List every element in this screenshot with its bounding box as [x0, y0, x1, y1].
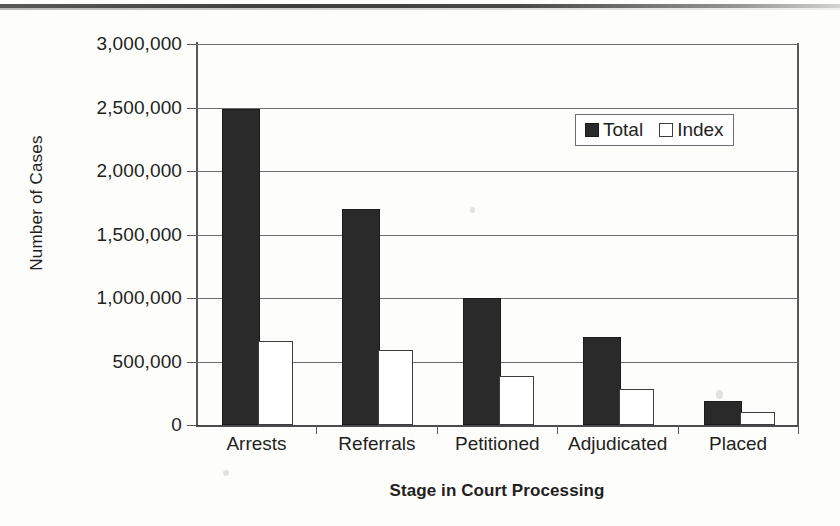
y-axis-title: Number of Cases	[27, 103, 47, 303]
gridline	[196, 171, 798, 172]
y-axis-tick-label: 1,500,000	[97, 224, 182, 246]
y-axis-tick	[187, 298, 196, 299]
y-axis-tick-label: 500,000	[113, 351, 182, 373]
chart-page: Number of Cases Stage in Court Processin…	[0, 0, 840, 526]
bar-total-adjudicated[interactable]	[583, 337, 621, 425]
x-axis-label-referrals: Referrals	[338, 433, 415, 455]
bar-index-placed[interactable]	[740, 412, 775, 425]
x-axis-tick	[316, 425, 317, 434]
x-axis-title: Stage in Court Processing	[196, 481, 798, 501]
y-axis-tick	[187, 108, 196, 109]
bar-total-referrals[interactable]	[342, 209, 380, 425]
x-axis-label-placed: Placed	[709, 433, 767, 455]
bar-total-arrests[interactable]	[222, 109, 260, 425]
y-axis-tick	[187, 425, 196, 426]
gridline	[196, 235, 798, 236]
y-axis-tick-label: 3,000,000	[97, 33, 182, 55]
y-axis-tick	[187, 362, 196, 363]
bar-total-petitioned[interactable]	[463, 298, 501, 425]
x-axis-tick	[798, 425, 799, 434]
legend-label-index: Index	[677, 119, 723, 141]
legend-entry-index[interactable]: Index	[659, 119, 723, 141]
y-axis-tick-label: 0	[171, 414, 182, 436]
x-axis-tick	[557, 425, 558, 434]
gridline	[196, 44, 798, 45]
scan-artifact-line-secondary	[0, 8, 840, 10]
bar-index-adjudicated[interactable]	[619, 389, 654, 425]
x-axis-label-arrests: Arrests	[226, 433, 286, 455]
bar-index-arrests[interactable]	[258, 341, 293, 425]
legend-label-total: Total	[603, 119, 643, 141]
bar-index-referrals[interactable]	[378, 350, 413, 425]
gridline	[196, 108, 798, 109]
y-axis-tick-label: 2,500,000	[97, 97, 182, 119]
x-axis-tick	[437, 425, 438, 434]
legend-swatch-index-icon	[659, 123, 673, 137]
gridline	[196, 425, 798, 427]
x-axis-label-petitioned: Petitioned	[455, 433, 540, 455]
plot-area: 0500,0001,000,0001,500,0002,000,0002,500…	[196, 44, 798, 425]
chart-legend[interactable]: Total Index	[575, 114, 734, 146]
y-axis-tick-label: 1,000,000	[97, 287, 182, 309]
x-axis-label-adjudicated: Adjudicated	[568, 433, 667, 455]
x-axis-tick	[678, 425, 679, 434]
y-axis-tick	[187, 171, 196, 172]
y-axis-tick-label: 2,000,000	[97, 160, 182, 182]
bar-total-placed[interactable]	[704, 401, 742, 425]
bar-index-petitioned[interactable]	[499, 376, 534, 425]
y-axis-tick	[187, 235, 196, 236]
y-axis-tick	[187, 44, 196, 45]
legend-swatch-total-icon	[585, 123, 599, 137]
scan-speck	[223, 470, 229, 476]
legend-entry-total[interactable]: Total	[585, 119, 643, 141]
